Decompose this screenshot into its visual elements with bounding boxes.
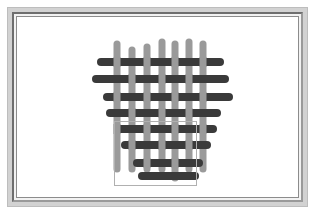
weave-diagram-svg <box>17 17 298 197</box>
screenshot-root <box>0 0 315 214</box>
weave-diagram-canvas <box>17 17 298 197</box>
diagram-background <box>17 17 298 197</box>
